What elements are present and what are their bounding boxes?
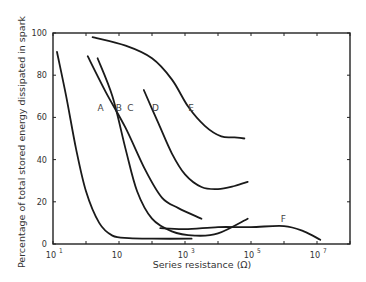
x-tick-label: 10: [112, 250, 122, 260]
y-axis-title: Percentage of total stored energy dissip…: [16, 15, 27, 268]
curve-label-a: A: [98, 103, 105, 113]
curve-label-d: D: [152, 103, 159, 113]
curve-c: [98, 58, 248, 236]
y-tick-label: 60: [37, 112, 47, 122]
x-tick-exponent: 5: [257, 247, 261, 255]
curve-d: [144, 90, 248, 189]
y-tick-label: 80: [37, 70, 47, 80]
x-tick-label: 10: [46, 250, 56, 260]
curve-label-b: B: [116, 103, 122, 113]
plot-frame: [53, 33, 350, 244]
y-tick-label: 100: [32, 28, 47, 38]
x-axis-ticks: 10110103105107: [46, 33, 350, 260]
curve-labels: ABCDEF: [98, 103, 286, 224]
curve-label-c: C: [127, 103, 133, 113]
y-axis-ticks: 020406080100: [32, 28, 350, 249]
x-tick-exponent: 1: [59, 247, 63, 255]
curve-label-e: E: [188, 103, 194, 113]
curve-e: [93, 37, 245, 138]
y-tick-label: 40: [37, 155, 47, 165]
y-tick-label: 20: [37, 197, 47, 207]
chart: 020406080100 10110103105107 ABCDEF Serie…: [0, 0, 366, 282]
y-tick-label: 0: [42, 239, 47, 249]
x-tick-exponent: 3: [191, 247, 195, 255]
x-tick-exponent: 7: [323, 247, 327, 255]
curve-label-f: F: [281, 214, 286, 224]
curve-b: [88, 56, 202, 219]
curve-f: [160, 226, 320, 240]
curves: [57, 37, 320, 240]
x-axis-title: Series resistance (Ω): [153, 259, 252, 270]
x-tick-label: 10: [310, 250, 320, 260]
